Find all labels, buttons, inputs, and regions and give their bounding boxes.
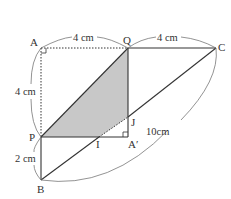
dimension-AP: 4 cm <box>15 86 36 97</box>
arc-AP-top <box>31 48 41 84</box>
point-label-A: A <box>30 36 38 48</box>
folded-rectangle-diagram: A Q C P I J A′ B 4 cm 4 cm 4 cm 2 cm 10c… <box>0 0 231 199</box>
point-label-C: C <box>218 41 225 53</box>
point-label-A-prime: A′ <box>128 138 138 150</box>
point-label-P: P <box>29 131 35 143</box>
arc-QC-right <box>181 37 216 48</box>
arc-PB-bottom <box>34 165 41 180</box>
point-label-Q: Q <box>123 34 131 46</box>
point-label-I: I <box>96 138 100 150</box>
dimension-QC: 4 cm <box>157 32 178 43</box>
right-angle-A-prime-icon <box>123 132 128 137</box>
arc-QC-left <box>128 37 156 48</box>
edge-BI <box>41 137 99 180</box>
point-label-B: B <box>37 183 44 195</box>
arc-AQ-left <box>41 37 72 48</box>
arc-BC-top <box>181 48 216 120</box>
right-angle-A-icon <box>41 48 46 53</box>
arc-BC-bottom <box>41 130 168 181</box>
dimension-PB: 2 cm <box>15 153 36 164</box>
edge-JC <box>128 48 216 117</box>
dimension-AQ: 4 cm <box>73 32 94 43</box>
dimension-BC: 10cm <box>146 126 169 137</box>
point-label-J: J <box>131 116 136 128</box>
